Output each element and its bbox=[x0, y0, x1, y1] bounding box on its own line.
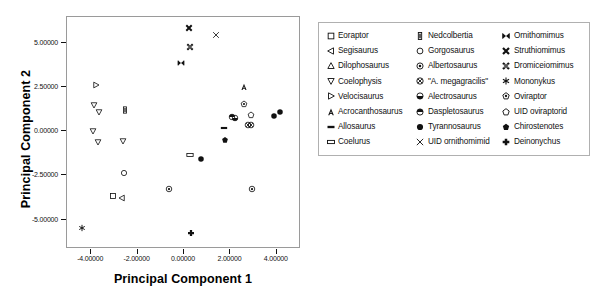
data-point bbox=[211, 31, 220, 40]
legend-label: Deinonychus bbox=[514, 137, 560, 146]
legend-label: Gorgosaurus bbox=[428, 46, 474, 55]
chart-area: -4.00000-2.000000.000002.000004.00000 5.… bbox=[0, 0, 310, 299]
data-point bbox=[240, 100, 249, 109]
circle-open-icon bbox=[414, 45, 427, 56]
legend-column: EoraptorSegisaurusDilophosaurusCoelophys… bbox=[324, 28, 414, 152]
tri-up-icon bbox=[324, 60, 337, 71]
legend-label: Alectrosaurus bbox=[428, 92, 477, 101]
legend-label: Tyrannosaurus bbox=[428, 122, 481, 131]
legend-entry: Nedcolbertia bbox=[414, 28, 500, 43]
legend-entry: Struthiomimus bbox=[500, 43, 586, 58]
legend-entry: Alectrosaurus bbox=[414, 89, 500, 104]
legend-entry: Daspletosaurus bbox=[414, 104, 500, 119]
legend-entry: Ornithomimus bbox=[500, 28, 586, 43]
legend-label: Acrocanthosaurus bbox=[338, 107, 402, 116]
legend-label: UID ornithomimid bbox=[428, 137, 490, 146]
legend-label: Oviraptor bbox=[514, 92, 547, 101]
x-tick-label: -4.00000 bbox=[77, 255, 103, 262]
legend-entry: Velocisaurus bbox=[324, 89, 414, 104]
legend-entry: Coelophysis bbox=[324, 74, 414, 89]
legend-entry: Segisaurus bbox=[324, 43, 414, 58]
legend-label: Albertosaurus bbox=[428, 61, 477, 70]
legend-label: Struthiomimus bbox=[514, 46, 565, 55]
tri-right-icon bbox=[324, 91, 337, 102]
pentagon-open-icon bbox=[500, 106, 513, 117]
asterisk-icon bbox=[500, 76, 513, 87]
legend-label: Coelurus bbox=[338, 137, 370, 146]
data-point bbox=[95, 108, 104, 117]
circle-x-icon bbox=[414, 76, 427, 87]
data-point bbox=[88, 127, 97, 136]
y-tick-mark bbox=[61, 130, 66, 131]
circle-dot-icon bbox=[414, 60, 427, 71]
legend-columns: EoraptorSegisaurusDilophosaurusCoelophys… bbox=[324, 28, 586, 152]
x-tick-label: 4.00000 bbox=[264, 255, 288, 262]
legend-column: OrnithomimusStruthiomimusDromiceiomimusM… bbox=[500, 28, 586, 152]
data-point bbox=[186, 42, 195, 51]
data-point bbox=[78, 224, 87, 233]
data-point bbox=[185, 23, 194, 32]
pentagon-fill-icon bbox=[500, 121, 513, 132]
legend-label: Segisaurus bbox=[338, 46, 378, 55]
plot-frame bbox=[66, 16, 300, 248]
scatter-plot-figure: -4.00000-2.000000.000002.000004.00000 5.… bbox=[0, 0, 609, 299]
data-point bbox=[220, 124, 229, 133]
data-point bbox=[197, 154, 206, 163]
legend-entry: Acrocanthosaurus bbox=[324, 104, 414, 119]
tri-left-icon bbox=[324, 45, 337, 56]
legend-label: Mononykus bbox=[514, 77, 555, 86]
x-tick-mark bbox=[183, 249, 184, 254]
data-point bbox=[275, 108, 284, 117]
x-tick-mark bbox=[229, 249, 230, 254]
data-point bbox=[164, 184, 173, 193]
x-tick-label: 0.00000 bbox=[171, 255, 195, 262]
data-point bbox=[187, 229, 196, 238]
circle-bottom-icon bbox=[414, 91, 427, 102]
data-point bbox=[239, 82, 248, 91]
legend-entry: Allosaurus bbox=[324, 119, 414, 134]
data-point bbox=[118, 137, 127, 146]
plot-points-layer bbox=[67, 17, 299, 247]
letter-a-icon bbox=[324, 106, 337, 117]
data-point bbox=[176, 59, 185, 68]
legend-label: Chirostenotes bbox=[514, 122, 563, 131]
legend-label: Dromiceiomimus bbox=[514, 61, 574, 70]
x-hatch-icon bbox=[500, 60, 513, 71]
legend-label: Allosaurus bbox=[338, 122, 375, 131]
data-point bbox=[118, 193, 127, 202]
y-tick-mark bbox=[61, 174, 66, 175]
legend-label: Nedcolbertia bbox=[428, 31, 473, 40]
circle-fill-icon bbox=[414, 121, 427, 132]
legend-entry: Tyrannosaurus bbox=[414, 119, 500, 134]
data-point bbox=[220, 135, 229, 144]
square-icon bbox=[324, 30, 337, 41]
pentagon-dot-icon bbox=[500, 91, 513, 102]
legend-label: Ornithomimus bbox=[514, 31, 564, 40]
data-point bbox=[230, 114, 239, 123]
legend-entry: UID oviraptorid bbox=[500, 104, 586, 119]
data-point bbox=[120, 106, 129, 115]
data-point bbox=[247, 120, 256, 129]
legend-label: "A. megagracilis" bbox=[428, 77, 488, 86]
legend-entry: UID ornithomimid bbox=[414, 134, 500, 149]
legend-label: Dilophosaurus bbox=[338, 61, 389, 70]
bowtie-icon bbox=[500, 30, 513, 41]
legend-entry: Gorgosaurus bbox=[414, 43, 500, 58]
data-point bbox=[247, 185, 256, 194]
legend-entry: Chirostenotes bbox=[500, 119, 586, 134]
legend-entry: Mononykus bbox=[500, 74, 586, 89]
legend-entry: Coelurus bbox=[324, 134, 414, 149]
legend-label: Coelophysis bbox=[338, 77, 382, 86]
y-tick-mark bbox=[61, 42, 66, 43]
legend-entry: Eoraptor bbox=[324, 28, 414, 43]
data-point bbox=[120, 169, 129, 178]
bar-open-icon bbox=[324, 136, 337, 147]
legend-box: EoraptorSegisaurusDilophosaurusCoelophys… bbox=[318, 22, 590, 156]
legend-entry: "A. megagracilis" bbox=[414, 74, 500, 89]
legend-label: UID oviraptorid bbox=[514, 107, 567, 116]
legend-entry: Dilophosaurus bbox=[324, 58, 414, 73]
tri-down-icon bbox=[324, 76, 337, 87]
x-tick-mark bbox=[137, 249, 138, 254]
plus-icon bbox=[500, 136, 513, 147]
data-point bbox=[246, 111, 255, 120]
